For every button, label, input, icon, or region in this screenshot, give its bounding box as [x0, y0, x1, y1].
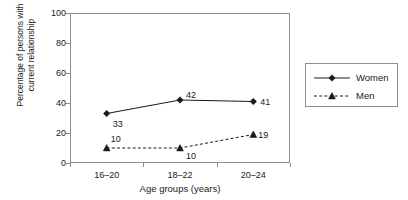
point-value-label: 10 — [111, 135, 121, 144]
x-tick-mark — [70, 163, 71, 167]
x-tick-mark — [143, 163, 144, 167]
y-tick-mark — [66, 13, 70, 14]
x-tick-label: 20–24 — [218, 170, 288, 180]
y-tick-mark — [66, 73, 70, 74]
y-tick-mark — [66, 103, 70, 104]
x-tick-mark — [290, 163, 291, 167]
legend-swatch-women — [312, 71, 352, 85]
x-tick-label: 18–22 — [145, 170, 215, 180]
data-point-women — [177, 97, 183, 103]
point-value-label: 33 — [113, 120, 123, 129]
legend-label-men: Men — [356, 89, 374, 103]
x-axis-label: Age groups (years) — [70, 183, 290, 194]
y-tick-mark — [66, 133, 70, 134]
point-value-label: 42 — [186, 91, 196, 100]
y-tick-mark — [66, 43, 70, 44]
legend-label-women: Women — [356, 71, 389, 85]
point-value-label: 19 — [258, 131, 268, 140]
x-tick-label: 16–20 — [72, 170, 142, 180]
point-value-label: 41 — [260, 98, 270, 107]
chart-legend: WomenMen — [305, 63, 398, 107]
chart-figure: Percentage of persons with current relat… — [0, 0, 408, 200]
x-tick-mark — [217, 163, 218, 167]
legend-swatch-men — [312, 89, 352, 103]
data-point-women — [250, 98, 256, 104]
data-point-women — [103, 110, 109, 116]
point-value-label: 10 — [186, 152, 196, 161]
data-point-men — [250, 131, 257, 137]
